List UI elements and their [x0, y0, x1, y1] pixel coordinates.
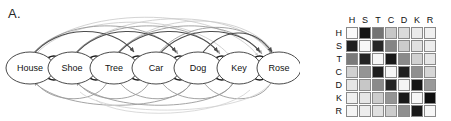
matrix-row: D — [331, 79, 436, 91]
matrix-row: S — [331, 40, 436, 52]
matrix-cell-k-d[interactable] — [398, 92, 410, 104]
matrix-cell-d-c[interactable] — [385, 79, 397, 91]
matrix-col-header-r: R — [424, 15, 436, 26]
matrix-row-header-r: R — [331, 105, 345, 117]
matrix-cell-s-c[interactable] — [385, 40, 397, 52]
matrix-cell-h-k[interactable] — [411, 27, 423, 39]
matrix-cell-k-k[interactable] — [411, 92, 423, 104]
node-house[interactable]: House — [6, 52, 54, 84]
sequence-graph-svg: House Shoe Tree Car Dog — [0, 0, 300, 121]
matrix-cell-d-h[interactable] — [346, 79, 358, 91]
matrix-cell-t-t[interactable] — [372, 53, 384, 65]
matrix-corner-cell — [331, 15, 345, 26]
matrix-col-header-s: S — [359, 15, 371, 26]
matrix-cell-d-r[interactable] — [424, 79, 436, 91]
node-label-shoe: Shoe — [61, 63, 82, 73]
matrix-row: H — [331, 27, 436, 39]
matrix-row-header-k: K — [331, 92, 345, 104]
matrix-cell-c-h[interactable] — [346, 66, 358, 78]
matrix-row: R — [331, 105, 436, 117]
node-label-dog: Dog — [190, 63, 207, 73]
matrix-cell-k-t[interactable] — [372, 92, 384, 104]
matrix-cell-h-r[interactable] — [424, 27, 436, 39]
matrix-cell-c-r[interactable] — [424, 66, 436, 78]
matrix-cell-d-s[interactable] — [359, 79, 371, 91]
matrix-cell-h-c[interactable] — [385, 27, 397, 39]
node-key[interactable]: Key — [217, 52, 261, 84]
matrix-cell-r-c[interactable] — [385, 105, 397, 117]
matrix-row-header-d: D — [331, 79, 345, 91]
node-car[interactable]: Car — [132, 52, 180, 84]
matrix-cell-s-s[interactable] — [359, 40, 371, 52]
matrix-cell-r-h[interactable] — [346, 105, 358, 117]
matrix-cell-d-k[interactable] — [411, 79, 423, 91]
matrix-cell-t-d[interactable] — [398, 53, 410, 65]
matrix-row-header-t: T — [331, 53, 345, 65]
matrix-cell-s-d[interactable] — [398, 40, 410, 52]
matrix-row: C — [331, 66, 436, 78]
matrix-cell-t-r[interactable] — [424, 53, 436, 65]
matrix-cell-r-r[interactable] — [424, 105, 436, 117]
figure-root: A. — [0, 0, 451, 121]
node-dog[interactable]: Dog — [174, 52, 222, 84]
matrix-row-header-h: H — [331, 27, 345, 39]
node-tree[interactable]: Tree — [90, 52, 138, 84]
matrix-cell-d-t[interactable] — [372, 79, 384, 91]
edges-backward-pale — [80, 86, 268, 113]
matrix-cell-k-s[interactable] — [359, 92, 371, 104]
matrix-body: HSTCDKR — [331, 27, 436, 117]
matrix-cell-k-r[interactable] — [424, 92, 436, 104]
matrix-col-header-t: T — [372, 15, 384, 26]
matrix-row-header-s: S — [331, 40, 345, 52]
matrix-cell-t-s[interactable] — [359, 53, 371, 65]
node-rose[interactable]: Rose — [257, 52, 300, 84]
matrix-cell-c-k[interactable] — [411, 66, 423, 78]
node-label-rose: Rose — [268, 63, 289, 73]
matrix-cell-k-c[interactable] — [385, 92, 397, 104]
matrix-cell-d-d[interactable] — [398, 79, 410, 91]
matrix-cell-t-h[interactable] — [346, 53, 358, 65]
matrix-cell-c-s[interactable] — [359, 66, 371, 78]
matrix-col-header-d: D — [398, 15, 410, 26]
matrix-cell-h-t[interactable] — [372, 27, 384, 39]
matrix-cell-s-r[interactable] — [424, 40, 436, 52]
matrix-header-row: HSTCDKR — [331, 15, 436, 26]
transition-matrix-table: HSTCDKR HSTCDKR — [330, 14, 437, 118]
node-shoe[interactable]: Shoe — [48, 52, 96, 84]
panel-a-sequence-graph: A. — [0, 0, 300, 121]
panel-b-transition-matrix: B. HSTCDKR HSTCDKR — [300, 0, 451, 121]
matrix-row-header-c: C — [331, 66, 345, 78]
matrix-cell-h-h[interactable] — [346, 27, 358, 39]
matrix-cell-c-c[interactable] — [385, 66, 397, 78]
matrix-cell-k-h[interactable] — [346, 92, 358, 104]
matrix-cell-r-d[interactable] — [398, 105, 410, 117]
matrix-col-header-h: H — [346, 15, 358, 26]
matrix-col-header-c: C — [385, 15, 397, 26]
matrix-cell-t-c[interactable] — [385, 53, 397, 65]
matrix-row: K — [331, 92, 436, 104]
matrix-cell-r-s[interactable] — [359, 105, 371, 117]
node-label-house: House — [17, 63, 43, 73]
matrix-col-header-k: K — [411, 15, 423, 26]
matrix-cell-h-d[interactable] — [398, 27, 410, 39]
matrix-cell-t-k[interactable] — [411, 53, 423, 65]
node-label-tree: Tree — [105, 63, 123, 73]
node-label-key: Key — [231, 63, 247, 73]
matrix-cell-s-h[interactable] — [346, 40, 358, 52]
matrix-row: T — [331, 53, 436, 65]
matrix-cell-r-t[interactable] — [372, 105, 384, 117]
node-label-car: Car — [149, 63, 164, 73]
matrix-container: HSTCDKR HSTCDKR — [330, 14, 437, 118]
matrix-cell-h-s[interactable] — [359, 27, 371, 39]
matrix-cell-c-d[interactable] — [398, 66, 410, 78]
matrix-cell-c-t[interactable] — [372, 66, 384, 78]
matrix-cell-s-t[interactable] — [372, 40, 384, 52]
matrix-cell-r-k[interactable] — [411, 105, 423, 117]
matrix-cell-s-k[interactable] — [411, 40, 423, 52]
